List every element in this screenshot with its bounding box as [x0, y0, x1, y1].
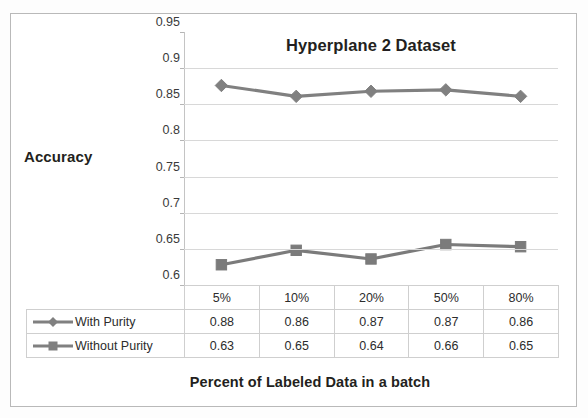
- table-corner-blank: [27, 286, 185, 310]
- y-axis-tick-label: 0.9: [138, 51, 180, 65]
- data-point-marker: [216, 260, 226, 270]
- gridline: [184, 68, 558, 69]
- table-data-cell: 0.87: [409, 310, 484, 334]
- gridline: [184, 213, 558, 214]
- legend-square-marker-icon: [31, 339, 75, 353]
- data-point-marker: [215, 79, 227, 91]
- gridline: [184, 140, 558, 141]
- data-point-marker: [366, 254, 376, 264]
- y-axis-tickmark: [180, 177, 184, 178]
- table-header-row: 5%10%20%50%80%: [27, 286, 559, 310]
- legend-label: With Purity: [75, 315, 135, 329]
- data-point-marker: [440, 84, 452, 96]
- data-point-marker: [515, 241, 525, 251]
- table-data-cell: 0.88: [185, 310, 260, 334]
- table-header-cell: 80%: [484, 286, 559, 310]
- chart-title: Hyperplane 2 Dataset: [184, 36, 558, 55]
- y-axis-tickmark: [180, 68, 184, 69]
- table-row: With Purity0.880.860.870.870.86: [27, 310, 559, 334]
- y-axis-tick-label: 0.85: [138, 87, 180, 101]
- chart-figure: Accuracy 0.950.90.850.80.750.70.650.6 Hy…: [0, 0, 588, 418]
- table-row: Without Purity0.630.650.640.660.65: [27, 334, 559, 358]
- series-2: [216, 239, 526, 270]
- table-data-cell: 0.65: [484, 334, 559, 358]
- legend-entry[interactable]: With Purity: [27, 310, 185, 334]
- y-axis-tick-label: 0.65: [138, 232, 180, 246]
- plot-area: [184, 32, 558, 285]
- table-data-cell: 0.66: [409, 334, 484, 358]
- y-axis-tickmark: [180, 32, 184, 33]
- gridline: [184, 177, 558, 178]
- legend-label: Without Purity: [75, 339, 153, 353]
- legend-diamond-marker-icon: [31, 315, 75, 329]
- table-header-cell: 20%: [334, 286, 409, 310]
- data-point-marker: [290, 90, 302, 102]
- y-axis-tick-label: 0.75: [138, 160, 180, 174]
- y-axis-tickmark: [180, 140, 184, 141]
- table-data-cell: 0.64: [334, 334, 409, 358]
- y-axis-tick-labels: 0.950.90.850.80.750.70.650.6: [138, 27, 180, 283]
- x-axis-title: Percent of Labeled Data in a batch: [60, 374, 560, 390]
- y-axis-tickmark: [180, 213, 184, 214]
- table-data-cell: 0.87: [334, 310, 409, 334]
- y-axis-tickmark: [180, 249, 184, 250]
- gridline: [184, 249, 558, 250]
- table-header-cell: 50%: [409, 286, 484, 310]
- table-data-cell: 0.65: [259, 334, 334, 358]
- y-axis-tick-label: 0.8: [138, 123, 180, 137]
- data-point-marker: [365, 85, 377, 97]
- series-1: [215, 79, 527, 102]
- data-point-marker: [514, 90, 526, 102]
- y-axis-title: Accuracy: [24, 148, 144, 165]
- table-header-cell: 10%: [259, 286, 334, 310]
- table-header-cell: 5%: [185, 286, 260, 310]
- y-axis-tick-label: 0.95: [138, 15, 180, 29]
- gridline: [184, 104, 558, 105]
- y-axis-tick-label: 0.7: [138, 196, 180, 210]
- legend-entry[interactable]: Without Purity: [27, 334, 185, 358]
- data-point-marker: [291, 245, 301, 255]
- series-layer: [184, 32, 558, 285]
- table-data-cell: 0.63: [185, 334, 260, 358]
- chart-data-table: 5%10%20%50%80%With Purity0.880.860.870.8…: [26, 285, 559, 358]
- y-axis-tickmark: [180, 104, 184, 105]
- y-axis-tick-label: 0.6: [138, 268, 180, 282]
- table-data-cell: 0.86: [259, 310, 334, 334]
- table-data-cell: 0.86: [484, 310, 559, 334]
